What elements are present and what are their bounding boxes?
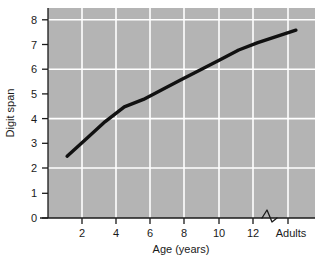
y-tick-labels: 0 1 2 3 4 5 6 7 8	[31, 14, 37, 224]
plot-background	[48, 8, 315, 218]
y-tick-label: 2	[31, 162, 37, 174]
x-tick-label: 10	[213, 227, 225, 239]
y-tick-label: 7	[31, 39, 37, 51]
y-tick-label: 5	[31, 88, 37, 100]
y-tick-marks	[42, 20, 48, 218]
y-tick-label: 6	[31, 63, 37, 75]
x-tick-label: 2	[79, 227, 85, 239]
digit-span-line-chart: 0 1 2 3 4 5 6 7 8 2 4 6 8	[0, 0, 324, 257]
y-tick-label: 0	[31, 212, 37, 224]
x-axis-title: Age (years)	[153, 243, 210, 255]
y-tick-label: 4	[31, 113, 37, 125]
x-tick-label: 4	[113, 227, 119, 239]
x-tick-label: 12	[247, 227, 259, 239]
x-tick-label: 6	[147, 227, 153, 239]
x-tick-marks	[82, 218, 288, 224]
x-tick-labels: 2 4 6 8 10 12 Adults	[79, 227, 307, 239]
chart-figure: 0 1 2 3 4 5 6 7 8 2 4 6 8	[0, 0, 324, 257]
y-axis-title: Digit span	[4, 89, 16, 138]
y-tick-label: 3	[31, 137, 37, 149]
x-tick-label-adults: Adults	[276, 227, 307, 239]
y-tick-label: 8	[31, 14, 37, 26]
y-tick-label: 1	[31, 187, 37, 199]
x-tick-label: 8	[181, 227, 187, 239]
